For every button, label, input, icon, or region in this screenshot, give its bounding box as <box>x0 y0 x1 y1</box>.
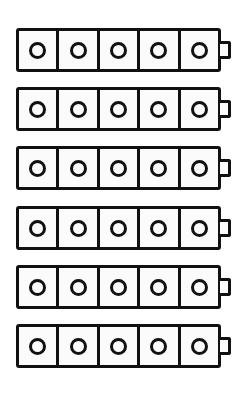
battery-cell <box>59 90 99 128</box>
battery-cell <box>140 31 180 69</box>
circle-outline-icon <box>110 338 127 355</box>
circle-outline-icon <box>110 42 127 59</box>
circle-outline-icon <box>70 220 87 237</box>
battery-cell <box>19 209 59 247</box>
battery-cell <box>19 268 59 306</box>
battery-cell <box>59 268 99 306</box>
battery-row <box>16 28 229 72</box>
battery-cell <box>100 327 140 365</box>
battery-terminal-icon <box>220 337 231 355</box>
battery-body <box>16 265 221 309</box>
battery-cell <box>181 149 218 187</box>
battery-cell <box>100 268 140 306</box>
battery-cell <box>59 327 99 365</box>
battery-cell <box>59 31 99 69</box>
battery-cell <box>181 327 218 365</box>
circle-outline-icon <box>29 220 46 237</box>
battery-terminal-icon <box>220 219 231 237</box>
circle-outline-icon <box>110 160 127 177</box>
circle-outline-icon <box>150 42 167 59</box>
battery-cell <box>19 327 59 365</box>
circle-outline-icon <box>29 101 46 118</box>
battery-cell <box>140 90 180 128</box>
battery-cell <box>59 149 99 187</box>
circle-outline-icon <box>29 160 46 177</box>
battery-cell <box>100 209 140 247</box>
battery-body <box>16 28 221 72</box>
circle-outline-icon <box>29 338 46 355</box>
battery-cell <box>59 209 99 247</box>
battery-body <box>16 324 221 368</box>
circle-outline-icon <box>70 101 87 118</box>
battery-cell <box>181 209 218 247</box>
battery-stack <box>0 0 248 395</box>
battery-row <box>16 206 229 250</box>
circle-outline-icon <box>29 279 46 296</box>
battery-row <box>16 146 229 190</box>
battery-body <box>16 206 221 250</box>
circle-outline-icon <box>191 42 208 59</box>
circle-outline-icon <box>150 160 167 177</box>
circle-outline-icon <box>150 101 167 118</box>
battery-row <box>16 324 229 368</box>
battery-terminal-icon <box>220 159 231 177</box>
battery-terminal-icon <box>220 100 231 118</box>
circle-outline-icon <box>150 338 167 355</box>
battery-cell <box>19 31 59 69</box>
battery-row <box>16 265 229 309</box>
battery-cell <box>100 149 140 187</box>
circle-outline-icon <box>191 101 208 118</box>
circle-outline-icon <box>110 220 127 237</box>
circle-outline-icon <box>191 220 208 237</box>
battery-body <box>16 87 221 131</box>
battery-terminal-icon <box>220 278 231 296</box>
circle-outline-icon <box>191 279 208 296</box>
circle-outline-icon <box>70 338 87 355</box>
circle-outline-icon <box>70 279 87 296</box>
battery-cell <box>19 90 59 128</box>
battery-cell <box>181 31 218 69</box>
battery-cell <box>140 327 180 365</box>
battery-cell <box>181 268 218 306</box>
battery-row <box>16 87 229 131</box>
circle-outline-icon <box>110 279 127 296</box>
battery-terminal-icon <box>220 41 231 59</box>
circle-outline-icon <box>29 42 46 59</box>
circle-outline-icon <box>150 220 167 237</box>
circle-outline-icon <box>70 160 87 177</box>
battery-cell <box>181 90 218 128</box>
battery-cell <box>140 268 180 306</box>
battery-body <box>16 146 221 190</box>
circle-outline-icon <box>70 42 87 59</box>
circle-outline-icon <box>150 279 167 296</box>
battery-cell <box>140 149 180 187</box>
circle-outline-icon <box>191 338 208 355</box>
battery-cell <box>100 31 140 69</box>
circle-outline-icon <box>191 160 208 177</box>
circle-outline-icon <box>110 101 127 118</box>
battery-cell <box>140 209 180 247</box>
battery-cell <box>100 90 140 128</box>
battery-cell <box>19 149 59 187</box>
